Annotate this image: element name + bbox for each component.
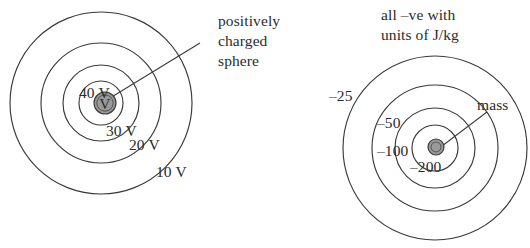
equipotential-figure: V 40 V 30 V 20 V 10 V positively charged… [0, 0, 530, 248]
left-label-10v: 10 V [156, 163, 187, 180]
right-label-minus200: –200 [409, 158, 442, 175]
right-label-minus25: –25 [328, 87, 353, 104]
left-label-40v: 40 V [79, 84, 110, 101]
right-caption-line2: units of J/kg [381, 26, 459, 43]
figure-root: V 40 V 30 V 20 V 10 V positively charged… [0, 0, 530, 248]
right-label-minus100: –100 [376, 142, 409, 159]
charged-sphere-annotation-line1: positively [218, 12, 280, 29]
right-caption-line1: all –ve with [381, 6, 456, 23]
charged-sphere-annotation-line3: sphere [218, 52, 259, 69]
right-diagram-group: –25 –50 –100 –200 mass all –ve with unit… [328, 6, 527, 240]
mass-body [428, 139, 444, 155]
charged-sphere-annotation-line2: charged [218, 32, 268, 49]
mass-annotation-label: mass [477, 96, 508, 113]
left-diagram-group: V 40 V 30 V 20 V 10 V positively charged… [10, 12, 280, 194]
left-label-20v: 20 V [129, 136, 160, 153]
right-label-minus50: –50 [376, 114, 401, 131]
